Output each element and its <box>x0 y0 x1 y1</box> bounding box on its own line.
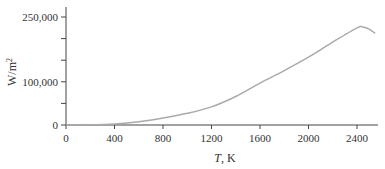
x-axis: 04008001200160020002400 <box>63 125 378 144</box>
x-tick-label: 2400 <box>346 132 369 144</box>
x-axis-title: T, K <box>214 151 236 165</box>
x-tick-label: 2000 <box>298 132 321 144</box>
x-tick-label: 0 <box>63 132 69 144</box>
y-tick-label: 100,000 <box>22 76 58 88</box>
data-line <box>66 26 375 125</box>
y-tick-label: 0 <box>53 119 59 131</box>
y-axis-title: W/m2 <box>5 58 20 86</box>
x-tick-label: 400 <box>106 132 123 144</box>
x-tick-label: 1600 <box>249 132 272 144</box>
chart: 0100,000250,000 04008001200160020002400 … <box>0 0 385 169</box>
y-axis: 0100,000250,000 <box>22 7 66 131</box>
x-tick-label: 1200 <box>201 132 224 144</box>
y-tick-label: 250,000 <box>22 11 58 23</box>
x-tick-label: 800 <box>155 132 172 144</box>
